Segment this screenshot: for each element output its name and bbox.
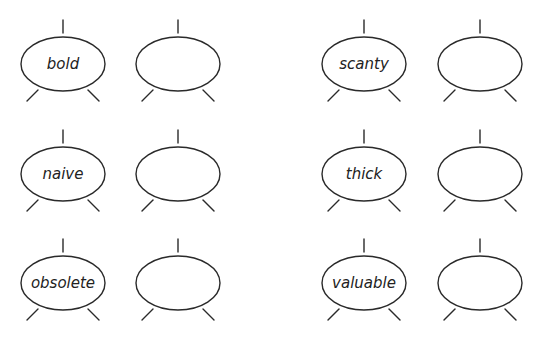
word-node-obsolete: obsolete: [21, 239, 105, 320]
blank-answer-ellipse[interactable]: [438, 256, 522, 310]
word-label: scanty: [339, 55, 390, 73]
word-label: naive: [43, 165, 84, 183]
blank-answer-ellipse[interactable]: [136, 147, 220, 201]
bottom-right-spoke-line: [505, 309, 516, 320]
bottom-left-spoke-line: [27, 200, 38, 211]
word-web-diagram: boldscantynaivethickobsoletevaluable: [0, 0, 544, 338]
bottom-left-spoke-line: [444, 200, 455, 211]
bottom-left-spoke-line: [444, 309, 455, 320]
bottom-right-spoke-line: [389, 309, 400, 320]
blank-answer-ellipse[interactable]: [438, 37, 522, 91]
word-node-scanty: scanty: [322, 20, 406, 101]
blank-node-thick: [438, 130, 522, 211]
bottom-right-spoke-line: [203, 90, 214, 101]
word-label: thick: [346, 165, 384, 183]
blank-node-obsolete: [136, 239, 220, 320]
blank-answer-ellipse[interactable]: [136, 256, 220, 310]
word-node-naive: naive: [21, 130, 105, 211]
bottom-left-spoke-line: [142, 200, 153, 211]
blank-node-valuable: [438, 239, 522, 320]
blank-node-naive: [136, 130, 220, 211]
bottom-right-spoke-line: [505, 90, 516, 101]
word-node-thick: thick: [322, 130, 406, 211]
bottom-right-spoke-line: [88, 90, 99, 101]
bottom-right-spoke-line: [505, 200, 516, 211]
bottom-right-spoke-line: [389, 200, 400, 211]
bottom-left-spoke-line: [142, 309, 153, 320]
word-label: obsolete: [31, 274, 95, 292]
bottom-right-spoke-line: [203, 309, 214, 320]
bottom-right-spoke-line: [389, 90, 400, 101]
blank-answer-ellipse[interactable]: [438, 147, 522, 201]
bottom-left-spoke-line: [328, 309, 339, 320]
word-node-bold: bold: [21, 20, 105, 101]
blank-answer-ellipse[interactable]: [136, 37, 220, 91]
word-label: valuable: [332, 274, 396, 292]
bottom-right-spoke-line: [88, 200, 99, 211]
bottom-left-spoke-line: [27, 309, 38, 320]
bottom-left-spoke-line: [328, 200, 339, 211]
bottom-right-spoke-line: [203, 200, 214, 211]
blank-node-bold: [136, 20, 220, 101]
word-label: bold: [47, 55, 80, 73]
blank-node-scanty: [438, 20, 522, 101]
bottom-left-spoke-line: [142, 90, 153, 101]
bottom-right-spoke-line: [88, 309, 99, 320]
word-node-valuable: valuable: [322, 239, 406, 320]
bottom-left-spoke-line: [444, 90, 455, 101]
bottom-left-spoke-line: [328, 90, 339, 101]
bottom-left-spoke-line: [27, 90, 38, 101]
